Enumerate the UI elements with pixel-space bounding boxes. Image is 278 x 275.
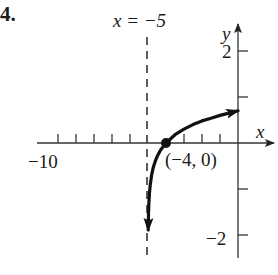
x-tick-label-minus-10: −10 <box>28 151 58 172</box>
x-axis-label: x <box>255 121 265 142</box>
log-function-graph: x = −5 x y −10 2 −2 (−4, 0) <box>0 0 278 275</box>
y-tick-label-2: 2 <box>222 41 232 62</box>
x-intercept-point <box>161 138 171 148</box>
y-tick-label-minus-2: −2 <box>206 228 226 249</box>
x-axis-ticks <box>58 134 220 143</box>
log-curve <box>148 111 238 230</box>
point-label: (−4, 0) <box>165 149 217 171</box>
asymptote-label: x = −5 <box>112 10 166 31</box>
